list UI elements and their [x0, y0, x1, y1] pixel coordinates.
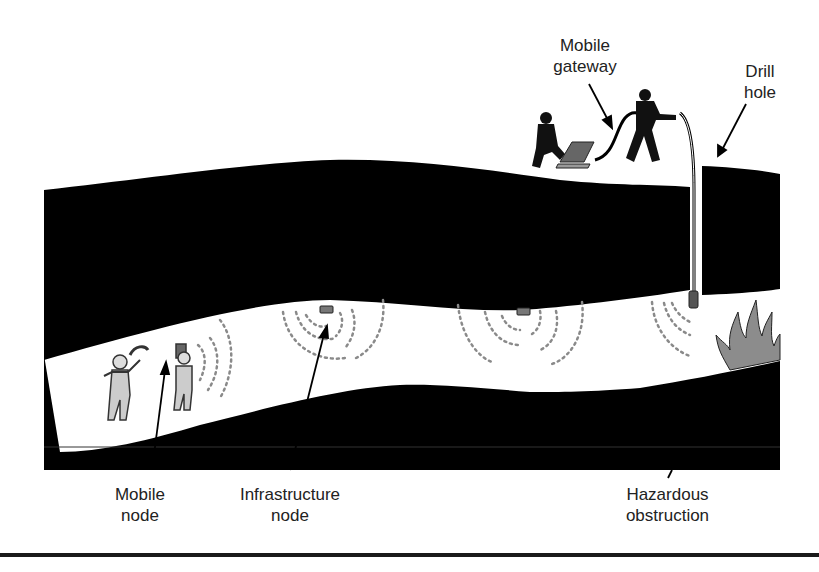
label-infrastructure-node: Infrastructure node	[220, 484, 360, 526]
fire-icon	[716, 300, 780, 370]
upper-rock-layer	[44, 160, 690, 360]
signal-wave-icon	[198, 300, 690, 398]
kneeling-operator-icon	[532, 112, 565, 168]
label-hazardous-obstruction: Hazardous obstruction	[605, 484, 730, 526]
bottom-rule	[0, 553, 819, 557]
label-mobile-node: Mobile node	[90, 484, 190, 526]
sensor-node-icon	[689, 291, 698, 308]
infrastructure-node-1	[320, 306, 333, 313]
label-mobile-gateway: Mobile gateway	[535, 35, 635, 77]
person-lowering-cable-icon	[626, 89, 676, 162]
infrastructure-node-2	[517, 308, 530, 315]
miner-with-pickaxe-icon	[104, 347, 148, 420]
left-rock-edge	[44, 355, 60, 470]
upper-rock-right	[702, 166, 780, 295]
label-drill-hole: Drill hole	[725, 61, 795, 103]
miner-with-radio-icon	[174, 344, 192, 410]
